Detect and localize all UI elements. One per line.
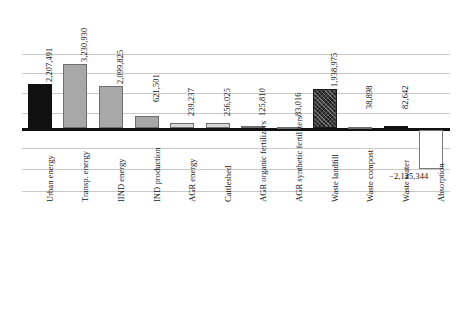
value-label-ind-production: 621,501 <box>151 74 160 102</box>
value-label-waste-water: 82,642 <box>400 85 409 109</box>
value-label-transp-energy: 3,230,930 <box>80 28 89 62</box>
cat-slot-transp-energy: Transp. energy <box>58 202 94 320</box>
value-label-agr-synthetic-fertilizers: 83,016 <box>293 92 302 116</box>
x-label-waste-water: Waste water <box>400 160 410 202</box>
bar-agr-energy[interactable] <box>170 123 194 128</box>
bar-iind-energy[interactable] <box>99 86 123 128</box>
x-label-ind-production: IND production <box>151 147 161 202</box>
x-label-agr-synthetic-fertilizers: AGR synthetic fertilizers <box>293 116 303 202</box>
cat-slot-absorption: Absorption <box>414 202 450 320</box>
bar-ind-production[interactable] <box>135 116 159 128</box>
bar-waste-water[interactable] <box>384 126 408 129</box>
cat-slot-waste-landfill: Waste landfill <box>307 202 343 320</box>
bar-waste-landfill[interactable] <box>313 89 337 128</box>
value-label-waste-compost: 38,898 <box>365 85 374 109</box>
cat-slot-waste-water: Waste water <box>378 202 414 320</box>
bar-waste-compost[interactable] <box>348 127 372 129</box>
x-label-iind-energy: IIND energy <box>115 158 125 202</box>
value-label-agr-organic-fertilizers: 125,810 <box>258 88 267 116</box>
cat-slot-ind-production: IND production <box>129 202 165 320</box>
x-label-cattleshed: Cattleshed <box>222 166 232 202</box>
cat-slot-iind-energy: IIND energy <box>93 202 129 320</box>
cat-slot-agr-energy: AGR energy <box>164 202 200 320</box>
bar-chart: 2,207,491 3,230,930 2,099,825 621,501 23… <box>0 0 456 324</box>
x-label-agr-energy: AGR energy <box>187 158 197 202</box>
x-label-urban-energy: Urban energy <box>44 155 54 202</box>
bar-transp-energy[interactable] <box>63 64 87 128</box>
value-label-agr-energy: 239,237 <box>187 88 196 116</box>
cat-slot-agr-organic-fertilizers: AGR organic fertilizers <box>236 202 272 320</box>
x-label-transp-energy: Transp. energy <box>80 151 90 202</box>
bar-cattleshed[interactable] <box>206 123 230 129</box>
x-label-absorption: Absorption <box>436 163 446 202</box>
cat-slot-waste-compost: Waste compost <box>342 202 378 320</box>
cat-slot-cattleshed: Cattleshed <box>200 202 236 320</box>
value-label-iind-energy: 2,099,825 <box>115 50 124 84</box>
x-label-waste-landfill: Waste landfill <box>329 154 339 202</box>
cat-slot-urban-energy: Urban energy <box>22 202 58 320</box>
x-label-agr-organic-fertilizers: AGR organic fertilizers <box>258 121 268 202</box>
x-label-waste-compost: Waste compost <box>365 150 375 202</box>
value-label-urban-energy: 2,207,491 <box>44 48 53 82</box>
value-label-cattleshed: 256,025 <box>222 88 231 116</box>
value-label-waste-landfill: 1,938,975 <box>329 53 338 87</box>
bar-urban-energy[interactable] <box>28 84 52 128</box>
x-axis-labels: Urban energy Transp. energy IIND energy … <box>22 202 450 320</box>
cat-slot-agr-synthetic-fertilizers: AGR synthetic fertilizers <box>271 202 307 320</box>
